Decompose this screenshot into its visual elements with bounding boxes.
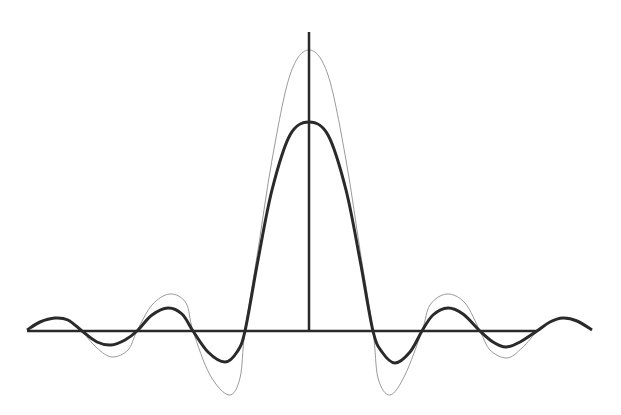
plot-area (0, 0, 621, 415)
